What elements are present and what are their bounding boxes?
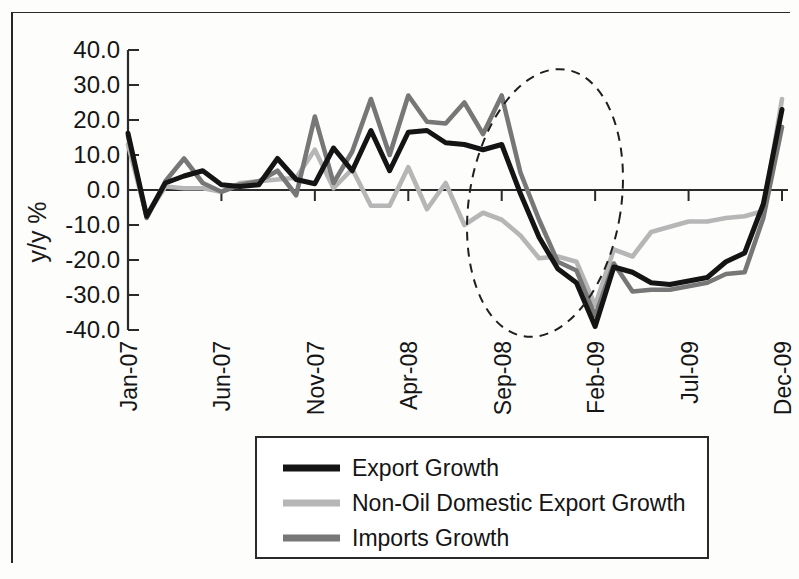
y-tick-label: -30.0 (65, 281, 120, 308)
y-axis-tick-labels: 40.030.020.010.00.0-10.0-20.0-30.0-40.0 (65, 36, 120, 343)
x-tick-label: Apr-08 (396, 341, 422, 410)
y-tick-label: -40.0 (65, 316, 120, 343)
x-tick-label: Jan-07 (116, 341, 142, 411)
x-tick-label: Nov-07 (303, 341, 329, 415)
x-tick-label: Jul-09 (677, 341, 703, 404)
x-tick-label: Jun-07 (209, 341, 235, 411)
data-series-layer (128, 96, 782, 327)
legend-label: Non-Oil Domestic Export Growth (352, 490, 686, 516)
line-chart: y/y % 40.030.020.010.00.0-10.0-20.0-30.0… (0, 0, 799, 579)
x-tick-label: Sep-08 (490, 341, 516, 415)
y-tick-label: 40.0 (73, 36, 120, 63)
y-tick-label: -20.0 (65, 246, 120, 273)
chart-canvas: y/y % 40.030.020.010.00.0-10.0-20.0-30.0… (0, 0, 799, 579)
series-line (128, 110, 782, 327)
legend-label: Imports Growth (352, 525, 509, 551)
crisis-highlight-ellipse (449, 58, 641, 348)
x-axis-tick-labels: Jan-07Jun-07Nov-07Apr-08Sep-08Feb-09Jul-… (116, 341, 796, 415)
figure-container: y/y % 40.030.020.010.00.0-10.0-20.0-30.0… (0, 0, 799, 579)
series-line (128, 99, 782, 306)
x-tick-label: Feb-09 (583, 341, 609, 414)
y-tick-label: 20.0 (73, 106, 120, 133)
y-tick-label: -10.0 (65, 211, 120, 238)
x-tick-label: Dec-09 (770, 341, 796, 415)
y-tick-label: 10.0 (73, 141, 120, 168)
y-tick-label: 30.0 (73, 71, 120, 98)
legend-label: Export Growth (352, 455, 499, 481)
y-axis-label: y/y % (23, 201, 51, 262)
y-tick-label: 0.0 (87, 176, 120, 203)
